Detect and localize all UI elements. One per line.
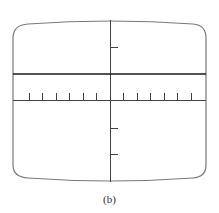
horizontal-ticks-right xyxy=(124,93,192,100)
horizontal-ticks-left xyxy=(30,93,97,100)
oscilloscope-diagram xyxy=(0,0,219,213)
figure-caption: (b) xyxy=(0,193,219,205)
